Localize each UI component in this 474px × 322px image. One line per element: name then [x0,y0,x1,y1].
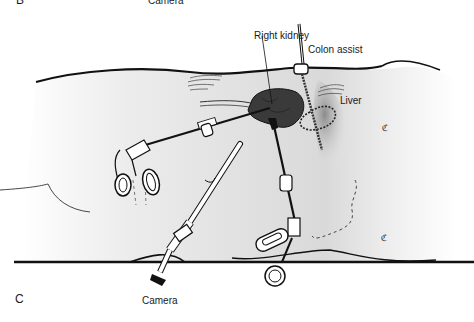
svg-text:ℭ: ℭ [381,233,387,243]
laparoscopic-nephrectomy-illustration: ℭ ℭ [0,0,474,322]
panel-letter-c: C [15,293,24,305]
patient-body: ℭ ℭ [0,61,474,262]
right-kidney-label: Right kidney [254,30,309,42]
svg-text:ℭ: ℭ [382,123,388,133]
camera-label: Camera [142,295,178,307]
colon-assist-label: Colon assist [308,44,362,56]
liver-label: Liver [340,95,362,107]
